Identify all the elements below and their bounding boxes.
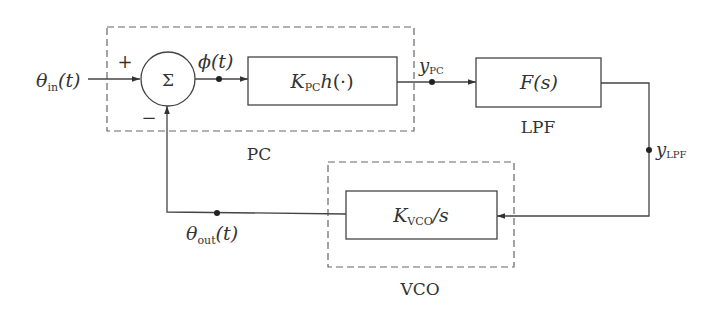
input-label: θin(t) — [36, 69, 81, 94]
vco-group-label: VCO — [399, 279, 439, 299]
output-label: θout(t) — [186, 222, 238, 247]
pc-output-dot — [429, 79, 435, 85]
plus-sign: + — [117, 51, 132, 72]
error-node-dot — [216, 76, 222, 82]
lpf-label: LPF — [521, 117, 556, 137]
error-signal-label: ϕ(t) — [198, 50, 233, 72]
minus-sign: − — [141, 107, 156, 128]
pc-block-label: KPCh(·) — [289, 70, 353, 94]
lpf-block-label: F(s) — [519, 71, 558, 93]
lpf-output-dot — [646, 147, 652, 153]
pc-group-label: PC — [247, 144, 271, 164]
sigma-symbol: Σ — [162, 70, 174, 90]
lpf-output-label: yLPF — [655, 139, 687, 160]
pll-block-diagram: PC θin(t) + − Σ ϕ(t) KPCh(·) yPC F(s) LP… — [0, 0, 718, 312]
output-node-dot — [214, 210, 220, 216]
pc-output-label: yPC — [418, 55, 444, 76]
